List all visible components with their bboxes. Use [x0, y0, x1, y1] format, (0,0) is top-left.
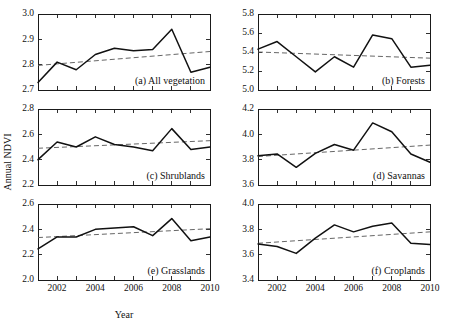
y-tick-label: 2.2 — [22, 249, 34, 259]
panel-title: (a) All vegetation — [135, 75, 205, 87]
x-axis-title: Year — [115, 309, 134, 320]
panel-5: 2.02.22.42.620022004200620082010(e) Gras… — [22, 198, 220, 293]
y-tick-label: 3.8 — [242, 224, 254, 234]
panel-title: (d) Savannas — [373, 170, 425, 182]
trend-line — [258, 232, 430, 243]
y-tick-label: 2.7 — [22, 84, 34, 94]
x-tick-label: 2006 — [344, 283, 363, 293]
panel-6: 3.43.63.84.020022004200620082010(f) Crop… — [242, 198, 440, 293]
x-tick-label: 2004 — [86, 283, 105, 293]
y-tick-label: 2.6 — [22, 198, 34, 208]
x-tick-label: 2008 — [382, 283, 401, 293]
y-tick-label: 2.4 — [22, 154, 34, 164]
x-tick-label: 2002 — [48, 283, 67, 293]
figure-canvas: 2.72.82.93.0(a) All vegetation5.05.25.45… — [0, 0, 454, 324]
y-tick-label: 5.4 — [242, 46, 254, 56]
x-tick-label: 2010 — [201, 283, 220, 293]
y-tick-label: 2.2 — [22, 179, 34, 189]
x-tick-label: 2010 — [421, 283, 440, 293]
y-tick-label: 3.0 — [22, 8, 34, 18]
data-series-line — [258, 223, 430, 253]
panel-2: 5.05.25.45.65.8(b) Forests — [242, 8, 430, 94]
y-tick-label: 2.8 — [22, 59, 34, 69]
y-tick-label: 5.0 — [242, 84, 254, 94]
panel-3: 2.22.42.62.8(c) Shrublands — [22, 103, 210, 189]
y-tick-label: 2.9 — [22, 34, 34, 44]
y-tick-label: 4.2 — [242, 103, 254, 113]
y-tick-label: 5.8 — [242, 8, 254, 18]
data-series-line — [258, 123, 430, 167]
y-tick-label: 4.0 — [242, 198, 254, 208]
panel-title: (c) Shrublands — [146, 170, 205, 182]
ndvi-multi-panel-figure: 2.72.82.93.0(a) All vegetation5.05.25.45… — [0, 0, 454, 324]
y-tick-label: 2.0 — [22, 274, 34, 284]
x-tick-label: 2006 — [124, 283, 143, 293]
y-tick-label: 3.8 — [242, 154, 254, 164]
y-tick-label: 3.6 — [242, 249, 254, 259]
y-tick-label: 2.8 — [22, 103, 34, 113]
data-series-line — [38, 129, 210, 160]
x-tick-label: 2002 — [268, 283, 287, 293]
x-tick-label: 2004 — [306, 283, 325, 293]
panel-1: 2.72.82.93.0(a) All vegetation — [22, 8, 210, 94]
panel-4: 3.63.84.04.2(d) Savannas — [242, 103, 430, 189]
y-tick-label: 5.2 — [242, 65, 254, 75]
panel-title: (e) Grasslands — [148, 265, 206, 277]
y-tick-label: 3.6 — [242, 179, 254, 189]
data-series-line — [258, 35, 430, 72]
y-tick-label: 2.4 — [22, 224, 34, 234]
y-tick-label: 4.0 — [242, 129, 254, 139]
y-tick-label: 3.4 — [242, 274, 254, 284]
panel-title: (b) Forests — [382, 75, 425, 87]
data-series-line — [38, 219, 210, 249]
y-tick-label: 2.6 — [22, 129, 34, 139]
panel-title: (f) Croplands — [371, 265, 425, 277]
y-axis-title: Annual NDVI — [2, 134, 13, 191]
x-tick-label: 2008 — [162, 283, 181, 293]
y-tick-label: 5.6 — [242, 27, 254, 37]
